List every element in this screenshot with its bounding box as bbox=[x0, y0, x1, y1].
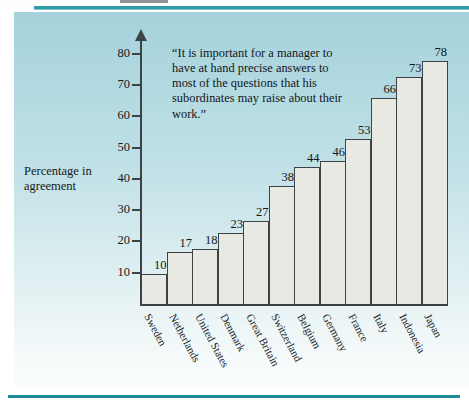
bar-value-label: 53 bbox=[331, 124, 371, 137]
bar bbox=[167, 252, 193, 305]
figure-page: Percentage in agreement 1020304050607080… bbox=[0, 0, 469, 417]
bar-value-label: 10 bbox=[127, 259, 167, 272]
x-axis-category-label: Germany bbox=[320, 312, 349, 353]
cropped-header-text-sliver bbox=[120, 0, 168, 3]
x-axis-category-label: France bbox=[346, 312, 370, 344]
x-axis-category-label: Sweden bbox=[142, 312, 168, 348]
x-axis-category-label: Belgium bbox=[295, 312, 323, 351]
bar bbox=[269, 186, 295, 305]
y-axis-tick-label: 10 bbox=[88, 266, 130, 279]
bar-value-label: 73 bbox=[382, 62, 422, 75]
bar bbox=[218, 233, 244, 305]
y-axis-tick-label: 70 bbox=[88, 78, 130, 91]
top-rule-shadow bbox=[34, 9, 469, 10]
bar bbox=[294, 167, 320, 305]
bar bbox=[141, 274, 167, 305]
bar bbox=[320, 161, 346, 305]
bar bbox=[345, 139, 371, 305]
y-axis-tick-label: 40 bbox=[88, 172, 130, 185]
quote-annotation: “It is important for a manager to have a… bbox=[172, 46, 348, 122]
bar-value-label: 38 bbox=[255, 171, 295, 184]
bar bbox=[243, 221, 269, 305]
y-axis-tick-label: 60 bbox=[88, 109, 130, 122]
bar-value-label: 46 bbox=[306, 146, 346, 159]
x-axis-category-label: Japan bbox=[422, 312, 443, 339]
chart-panel: Percentage in agreement 1020304050607080… bbox=[14, 12, 469, 387]
y-axis-tick-label: 80 bbox=[88, 47, 130, 60]
y-axis-tick-label: 20 bbox=[88, 234, 130, 247]
y-axis-tick-label: 50 bbox=[88, 141, 130, 154]
bar-value-label: 23 bbox=[204, 218, 244, 231]
bar-value-label: 27 bbox=[229, 206, 269, 219]
bar bbox=[371, 98, 397, 305]
bar bbox=[396, 77, 422, 305]
y-axis-tick-label: 30 bbox=[88, 203, 130, 216]
plot-area: Percentage in agreement 1020304050607080… bbox=[14, 12, 469, 387]
bar bbox=[422, 61, 448, 305]
bar-value-label: 18 bbox=[178, 234, 218, 247]
bar bbox=[192, 249, 218, 305]
bar-value-label: 66 bbox=[357, 83, 397, 96]
x-axis-category-label: Italy bbox=[371, 312, 390, 335]
bar-value-label: 78 bbox=[408, 46, 448, 59]
bottom-rule bbox=[8, 395, 460, 398]
